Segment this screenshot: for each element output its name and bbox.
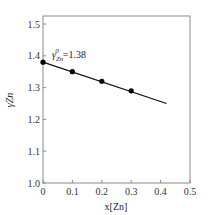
y-axis-label: γZn bbox=[4, 93, 15, 108]
data-point bbox=[129, 88, 134, 93]
fit-line bbox=[43, 62, 166, 103]
data-point bbox=[70, 69, 75, 74]
x-tick-label: 0.5 bbox=[184, 186, 197, 197]
data-point bbox=[99, 79, 104, 84]
y-tick-label: 1.0 bbox=[28, 178, 41, 189]
data-point bbox=[40, 60, 45, 65]
y-tick-label: 1.4 bbox=[28, 50, 41, 61]
y-tick-label: 1.5 bbox=[28, 19, 41, 30]
x-tick-label: 0.4 bbox=[154, 186, 167, 197]
x-axis-label: x[Zn] bbox=[105, 201, 128, 212]
y-tick-label: 1.2 bbox=[28, 114, 41, 125]
y-tick-label: 1.1 bbox=[28, 146, 41, 157]
chart: 1.01.11.21.31.41.5 00.10.20.30.40.5 γZn0… bbox=[0, 0, 208, 215]
gamma-annotation: γZn0=1.38 bbox=[52, 47, 86, 63]
x-tick-label: 0.1 bbox=[66, 186, 79, 197]
x-tick-label: 0.3 bbox=[125, 186, 138, 197]
x-tick-label: 0 bbox=[41, 186, 46, 197]
plot-frame bbox=[43, 16, 190, 183]
x-tick-label: 0.2 bbox=[96, 186, 109, 197]
y-tick-label: 1.3 bbox=[28, 82, 41, 93]
